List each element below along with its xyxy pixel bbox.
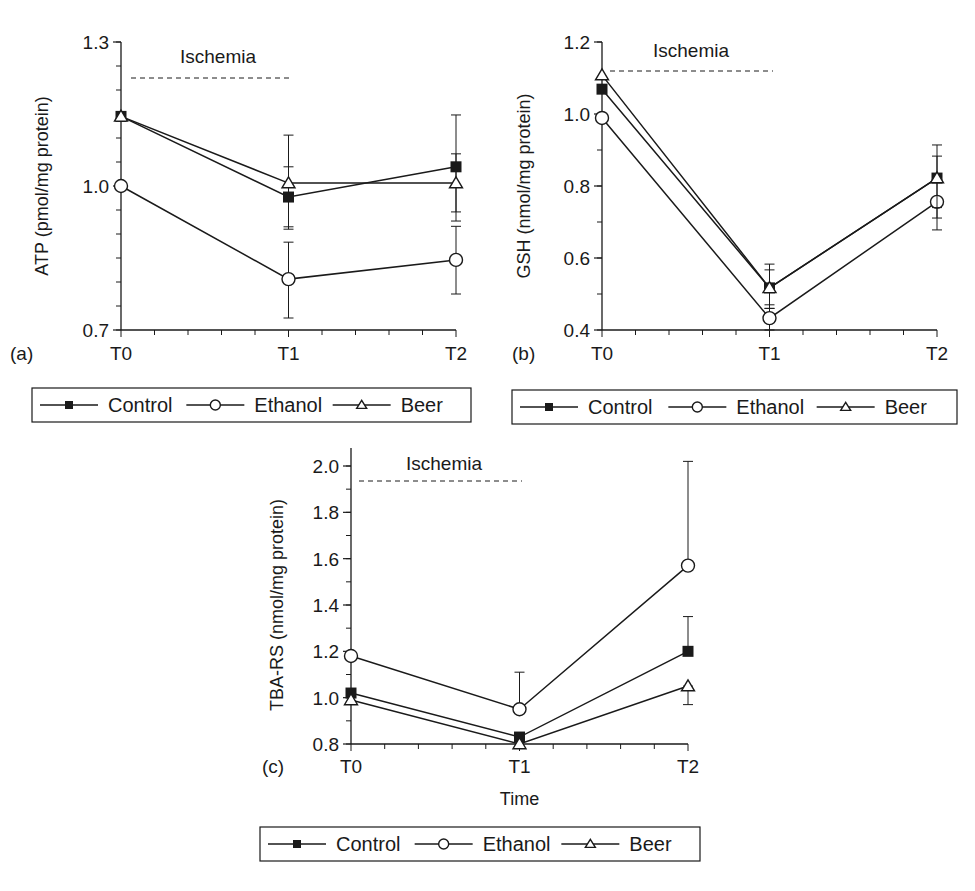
open-circle-legend-icon (692, 402, 702, 412)
open-circle-marker (345, 649, 358, 662)
open-circle-marker (450, 253, 463, 266)
open-triangle-marker (282, 177, 295, 188)
y-tick-label: 0.6 (564, 248, 590, 269)
x-tick-label: T0 (340, 756, 362, 777)
y-tick-label: 1.2 (564, 32, 590, 53)
open-circle-marker (115, 180, 128, 193)
y-tick-label: 1.6 (313, 549, 339, 570)
legend-label-control: Control (108, 394, 172, 416)
open-circle-legend-icon (210, 400, 220, 410)
filled-square-marker (597, 84, 608, 95)
x-tick-label: T1 (508, 756, 530, 777)
series-beer (596, 69, 944, 305)
y-tick-label: 2.0 (313, 456, 339, 477)
x-tick-label: T2 (926, 343, 948, 364)
filled-square-legend-icon (545, 403, 553, 411)
chart-panel-c-tbars: 2.01.81.61.41.21.00.8T0T1T2(c)TBA-RS (nm… (260, 448, 700, 861)
y-tick-label: 1.2 (313, 641, 339, 662)
x-tick-label: T1 (758, 343, 780, 364)
y-tick-label: 0.8 (313, 734, 339, 755)
y-tick-label: 0.7 (83, 320, 109, 341)
legend-label-control: Control (588, 396, 652, 418)
legend-label-ethanol: Ethanol (483, 833, 551, 855)
series-ethanol (345, 461, 695, 715)
open-circle-marker (682, 559, 695, 572)
figure-canvas: 1.31.00.7T0T1T2(a)ATP (pmol/mg protein)I… (0, 0, 975, 891)
y-tick-label: 1.0 (83, 176, 109, 197)
open-circle-marker (282, 273, 295, 286)
filled-square-legend-icon (293, 840, 301, 848)
y-tick-label: 1.0 (313, 688, 339, 709)
x-tick-label: T2 (677, 756, 699, 777)
ischemia-label: Ischemia (180, 46, 256, 67)
open-circle-marker (513, 703, 526, 716)
open-circle-legend-icon (439, 839, 449, 849)
y-tick-label: 1.4 (313, 595, 340, 616)
x-tick-label: T0 (591, 343, 613, 364)
legend-label-ethanol: Ethanol (736, 396, 804, 418)
open-circle-marker (763, 312, 776, 325)
chart-panel-b-gsh: 1.21.00.80.60.4T0T1T2(b)GSH (nmol/mg pro… (512, 32, 957, 424)
legend-box: ControlEthanolBeer (512, 390, 957, 424)
y-axis-title: TBA-RS (nmol/mg protein) (267, 499, 287, 711)
x-tick-label: T0 (110, 343, 132, 364)
open-triangle-marker (596, 69, 609, 80)
y-tick-label: 1.8 (313, 502, 339, 523)
ischemia-label: Ischemia (653, 40, 729, 61)
y-tick-label: 1.0 (564, 104, 590, 125)
ischemia-label: Ischemia (406, 453, 482, 474)
panel-label: (a) (10, 343, 33, 364)
legend-label-beer: Beer (401, 394, 444, 416)
y-axis-title: GSH (nmol/mg protein) (514, 93, 534, 278)
chart-panel-a-atp: 1.31.00.7T0T1T2(a)ATP (pmol/mg protein)I… (10, 32, 471, 422)
legend-label-ethanol: Ethanol (254, 394, 322, 416)
legend-box: ControlEthanolBeer (260, 827, 700, 861)
panel-label: (b) (512, 343, 535, 364)
open-triangle-marker (682, 680, 695, 691)
legend-box: ControlEthanolBeer (32, 388, 471, 422)
x-tick-label: T2 (445, 343, 467, 364)
y-tick-label: 0.8 (564, 176, 590, 197)
legend-label-beer: Beer (885, 396, 928, 418)
series-line (602, 89, 937, 288)
open-circle-marker (596, 111, 609, 124)
legend-label-control: Control (336, 833, 400, 855)
y-axis-title: ATP (pmol/mg protein) (32, 96, 52, 275)
x-tick-label: T1 (277, 343, 299, 364)
filled-square-marker (683, 646, 694, 657)
y-tick-label: 0.4 (564, 320, 591, 341)
series-line (602, 75, 937, 288)
legend-label-beer: Beer (629, 833, 672, 855)
filled-square-legend-icon (65, 401, 73, 409)
open-triangle-marker (450, 177, 463, 188)
y-tick-label: 1.3 (83, 32, 109, 53)
x-axis-title: Time (500, 789, 539, 809)
panel-label: (c) (262, 756, 284, 777)
